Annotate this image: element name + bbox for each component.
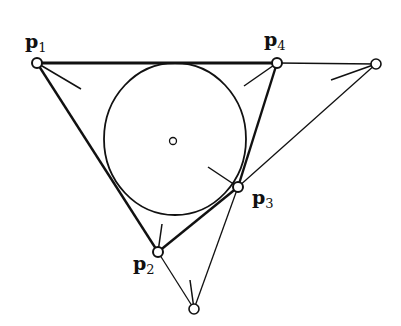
vertex-bottom [189, 304, 199, 314]
label-p3: p3 [252, 186, 274, 211]
vertex-p2 [153, 247, 163, 257]
diagram-canvas: p1 p4 p3 p2 [0, 0, 401, 326]
line-p4-right [277, 63, 376, 64]
vertex-p4 [272, 58, 282, 68]
label-p1: p1 [25, 30, 47, 55]
tick-right [331, 64, 376, 80]
edge-p3-p4 [238, 63, 277, 187]
vertex-p3 [233, 182, 243, 192]
edge-p1-p2 [37, 63, 158, 252]
line-p2-bottom [158, 252, 194, 309]
label-p2: p2 [133, 252, 155, 277]
center-point [170, 138, 177, 145]
line-right-p3 [238, 64, 376, 187]
label-p4: p4 [264, 28, 286, 53]
vertex-p1 [32, 58, 42, 68]
tick-p1 [37, 63, 81, 89]
vertex-right [371, 59, 381, 69]
